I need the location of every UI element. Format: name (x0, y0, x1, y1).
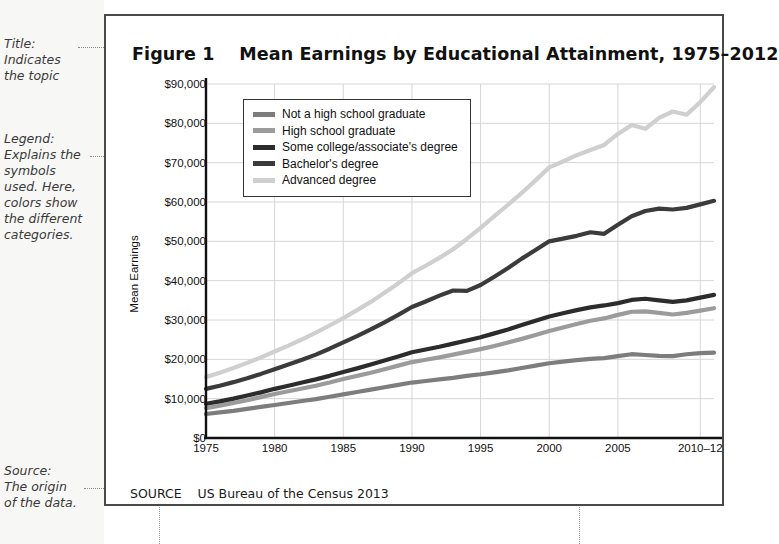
x-tick-label: 2000 (536, 442, 562, 454)
y-tick-label: $50,000 (140, 235, 206, 247)
legend-swatch-icon (253, 112, 275, 117)
legend-item[interactable]: Not a high school graduate (253, 106, 458, 123)
legend-item-label: High school graduate (282, 124, 395, 138)
legend-swatch-icon (253, 178, 275, 183)
figure-source: SOURCE US Bureau of the Census 2013 (130, 486, 389, 501)
x-axis-ticks: 19751980198519901995200020052010–12 (106, 442, 726, 462)
annotation-source: Source: The origin of the data. (4, 463, 100, 511)
annotation-title: Title: Indicates the topic (4, 36, 100, 84)
legend-item[interactable]: High school graduate (253, 123, 458, 140)
legend-item[interactable]: Bachelor's degree (253, 156, 458, 173)
legend-swatch-icon (253, 161, 275, 166)
legend-swatch-icon (253, 145, 275, 150)
chart-legend: Not a high school graduateHigh school gr… (243, 99, 471, 197)
x-tick-label: 2005 (605, 442, 631, 454)
x-tick-label: 1980 (262, 442, 288, 454)
annotation-legend: Legend: Explains the symbols used. Here,… (4, 131, 100, 243)
x-tick-label: 1995 (468, 442, 494, 454)
y-tick-label: $30,000 (140, 314, 206, 326)
legend-item-label: Bachelor's degree (282, 157, 378, 171)
y-tick-label: $40,000 (140, 275, 206, 287)
legend-item[interactable]: Advanced degree (253, 172, 458, 189)
x-tick-label: 1990 (399, 442, 425, 454)
chart-plot-area: Mean Earnings $90,000$80,000$70,000$60,0… (106, 78, 726, 478)
x-tick-label: 1975 (193, 442, 219, 454)
figure-title: Figure 1 Mean Earnings by Educational At… (132, 44, 779, 64)
y-tick-label: $20,000 (140, 353, 206, 365)
series-line (206, 201, 714, 389)
legend-swatch-icon (253, 128, 275, 133)
y-tick-label: $80,000 (140, 117, 206, 129)
legend-item-label: Some college/associate's degree (282, 140, 458, 154)
series-line (206, 353, 714, 414)
figure-panel: Figure 1 Mean Earnings by Educational At… (104, 14, 724, 506)
legend-item[interactable]: Some college/associate's degree (253, 139, 458, 156)
x-tick-label: 1985 (331, 442, 357, 454)
y-tick-label: $10,000 (140, 393, 206, 405)
annotation-gutter: Title: Indicates the topic Legend: Expla… (0, 0, 104, 544)
y-tick-label: $70,000 (140, 157, 206, 169)
y-axis-ticks: $90,000$80,000$70,000$60,000$50,000$40,0… (138, 78, 206, 478)
legend-item-label: Not a high school graduate (282, 107, 425, 121)
x-tick-label: 2010–12 (678, 442, 723, 454)
series-line (206, 308, 714, 408)
legend-item-label: Advanced degree (282, 173, 376, 187)
y-tick-label: $90,000 (140, 78, 206, 90)
y-tick-label: $60,000 (140, 196, 206, 208)
